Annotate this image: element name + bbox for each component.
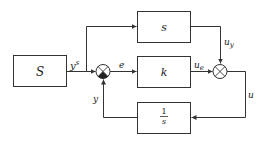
block-k-controller: k xyxy=(138,57,191,88)
label-ue: ue xyxy=(194,60,204,72)
label-u: u xyxy=(248,90,254,100)
integrator-denominator: s xyxy=(162,117,166,126)
wire-y xyxy=(104,80,138,118)
label-ys: ys xyxy=(69,59,80,71)
block-diagram: S s k 1 s xyxy=(0,0,264,143)
block-integrator: 1 s xyxy=(138,103,191,134)
block-S-label: S xyxy=(36,65,44,79)
block-k-label: k xyxy=(161,66,168,79)
block-S: S xyxy=(14,56,67,87)
block-s-feedforward: s xyxy=(138,12,191,43)
wire-uy xyxy=(191,27,221,64)
block-s-label: s xyxy=(161,21,167,34)
integrator-numerator: 1 xyxy=(161,107,166,116)
wire-ys-branch xyxy=(87,27,137,72)
label-e: e xyxy=(119,60,124,70)
label-y: y xyxy=(92,94,99,104)
label-uy: uy xyxy=(224,37,235,49)
summing-junction-right xyxy=(213,65,227,79)
summing-junction-left xyxy=(96,65,110,79)
